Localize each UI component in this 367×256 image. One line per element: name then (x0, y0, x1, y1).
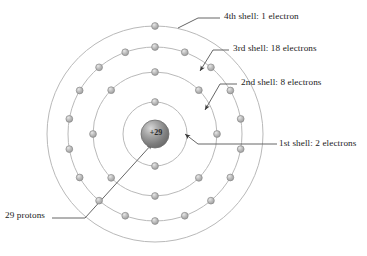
electron-shell3-9 (181, 212, 188, 219)
electron-shell4-1 (152, 23, 159, 30)
label-3rd-shell: 3rd shell: 18 electrons (233, 44, 317, 53)
electron-shell1-2 (152, 163, 159, 170)
electron-shell3-6 (237, 146, 244, 153)
electron-shell2-8 (108, 87, 115, 94)
electron-shell2-4 (195, 174, 202, 181)
electron-shell2-3 (214, 131, 221, 138)
electron-shell3-5 (237, 115, 244, 122)
electron-shell2-7 (90, 131, 97, 138)
electron-shell2-5 (152, 193, 159, 200)
electron-shell3-2 (181, 49, 188, 56)
electron-shell3-14 (66, 146, 73, 153)
electron-shell3-8 (208, 197, 215, 204)
electron-shell3-16 (76, 87, 83, 94)
nucleus-charge-label: +29 (143, 128, 169, 137)
label-2nd-shell: 2nd shell: 8 electrons (241, 78, 322, 87)
electron-shell3-17 (96, 64, 103, 71)
electron-shell3-11 (122, 212, 129, 219)
electron-shell3-12 (96, 197, 103, 204)
electron-shell3-10 (152, 218, 159, 225)
label-4th-shell: 4th shell: 1 electron (224, 12, 299, 21)
electron-shell2-2 (195, 87, 202, 94)
electron-shell3-1 (152, 44, 159, 51)
electron-shell2-6 (108, 174, 115, 181)
electron-shell3-18 (122, 49, 129, 56)
electron-shell3-7 (227, 174, 234, 181)
label-1st-shell: 1st shell: 2 electrons (279, 139, 356, 148)
electron-shell3-13 (76, 174, 83, 181)
bohr-atom-diagram: +29 4th shell: 1 electron 3rd shell: 18 … (0, 0, 367, 256)
electron-shell1-1 (152, 99, 159, 106)
electron-shell2-1 (152, 69, 159, 76)
electron-shell3-3 (208, 64, 215, 71)
electron-shell3-15 (66, 115, 73, 122)
electron-shell3-4 (227, 87, 234, 94)
label-protons: 29 protons (5, 211, 45, 220)
leader-line-protons (52, 144, 152, 218)
atom-diagram-svg (0, 0, 367, 256)
leader-line-shell4 (178, 18, 220, 28)
